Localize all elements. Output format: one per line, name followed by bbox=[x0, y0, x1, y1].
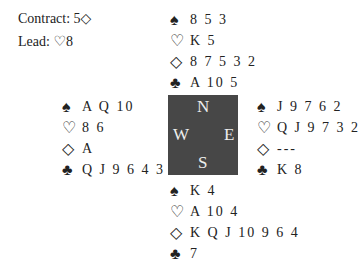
north-hearts: ♡K 5 bbox=[170, 30, 257, 51]
heart-icon: ♡ bbox=[170, 202, 190, 222]
club-icon: ♣ bbox=[170, 244, 190, 264]
heart-icon: ♡ bbox=[62, 118, 82, 138]
spade-icon: ♠ bbox=[257, 97, 277, 117]
west-hearts: ♡8 6 bbox=[62, 117, 180, 138]
contract-line: Contract: 5◇ bbox=[18, 9, 91, 29]
east-hand: ♠J 9 7 6 2 ♡Q J 9 7 3 2 ◇--- ♣K 8 bbox=[257, 96, 360, 180]
diamond-icon: ◇ bbox=[62, 139, 82, 159]
club-icon: ♣ bbox=[257, 160, 277, 180]
west-hand: ♠A Q 10 ♡8 6 ◇A ♣Q J 9 6 4 3 2 bbox=[62, 96, 180, 180]
compass-north: N bbox=[197, 97, 209, 117]
east-diamonds: ◇--- bbox=[257, 138, 360, 159]
heart-icon: ♡ bbox=[257, 118, 277, 138]
contract-label: Contract: bbox=[18, 11, 70, 26]
lead-value: ♡8 bbox=[53, 34, 73, 49]
west-clubs: ♣Q J 9 6 4 3 2 bbox=[62, 159, 180, 180]
diamond-icon: ◇ bbox=[257, 139, 277, 159]
club-icon: ♣ bbox=[170, 73, 190, 93]
west-diamonds: ◇A bbox=[62, 138, 180, 159]
diamond-icon: ◇ bbox=[170, 223, 190, 243]
east-hearts: ♡Q J 9 7 3 2 bbox=[257, 117, 360, 138]
lead-label: Lead: bbox=[18, 34, 50, 49]
compass-east: E bbox=[224, 125, 234, 145]
east-spades: ♠J 9 7 6 2 bbox=[257, 96, 360, 117]
south-hand: ♠K 4 ♡A 10 4 ◇K Q J 10 9 6 4 ♣7 bbox=[170, 180, 300, 264]
north-spades: ♠8 5 3 bbox=[170, 9, 257, 30]
spade-icon: ♠ bbox=[62, 97, 82, 117]
compass-south: S bbox=[198, 153, 207, 173]
east-clubs: ♣K 8 bbox=[257, 159, 360, 180]
spade-icon: ♠ bbox=[170, 10, 190, 30]
club-icon: ♣ bbox=[62, 160, 82, 180]
diamond-icon: ◇ bbox=[170, 52, 190, 72]
compass-table: N W E S bbox=[168, 95, 238, 175]
south-spades: ♠K 4 bbox=[170, 180, 300, 201]
north-hand: ♠8 5 3 ♡K 5 ◇8 7 5 3 2 ♣A 10 5 bbox=[170, 9, 257, 93]
south-hearts: ♡A 10 4 bbox=[170, 201, 300, 222]
south-clubs: ♣7 bbox=[170, 243, 300, 264]
spade-icon: ♠ bbox=[170, 181, 190, 201]
north-clubs: ♣A 10 5 bbox=[170, 72, 257, 93]
lead-line: Lead: ♡8 bbox=[18, 32, 73, 52]
heart-icon: ♡ bbox=[170, 31, 190, 51]
west-spades: ♠A Q 10 bbox=[62, 96, 180, 117]
contract-value: 5◇ bbox=[74, 11, 92, 26]
compass-west: W bbox=[173, 125, 189, 145]
south-diamonds: ◇K Q J 10 9 6 4 bbox=[170, 222, 300, 243]
north-diamonds: ◇8 7 5 3 2 bbox=[170, 51, 257, 72]
